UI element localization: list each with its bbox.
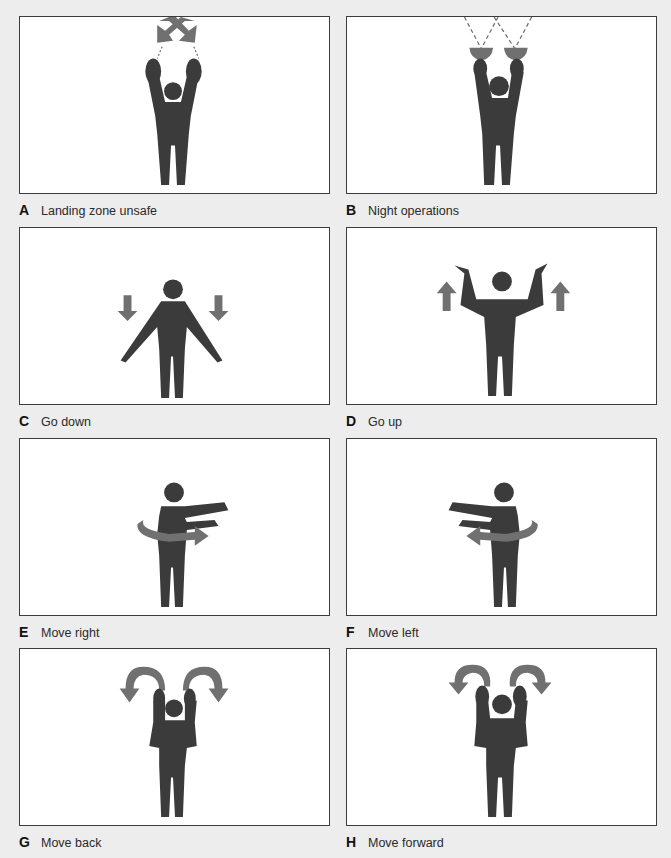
caption-g: GMove back xyxy=(19,834,101,850)
panel-letter: D xyxy=(346,413,368,429)
signal-figure-move-back xyxy=(20,649,329,825)
signal-figure-move-forward xyxy=(347,649,656,825)
curved-outward-arrows-icon xyxy=(120,667,229,703)
panel-move-back xyxy=(19,648,330,826)
panel-caption: Move forward xyxy=(368,836,444,850)
caption-a: ALanding zone unsafe xyxy=(19,202,157,218)
panel-caption: Move back xyxy=(41,836,101,850)
panel-move-left xyxy=(346,438,657,616)
panel-letter: A xyxy=(19,202,41,218)
flashlights-overhead-icon xyxy=(464,17,531,61)
panel-caption: Go down xyxy=(41,415,91,429)
caption-f: FMove left xyxy=(346,624,419,640)
panel-letter: C xyxy=(19,413,41,429)
panel-letter: F xyxy=(346,624,368,640)
person-silhouette-icon xyxy=(449,483,520,608)
signal-figure-go-down xyxy=(20,228,329,404)
panel-landing-zone-unsafe xyxy=(19,16,330,194)
person-silhouette-icon xyxy=(474,686,527,818)
caption-e: EMove right xyxy=(19,624,99,640)
panel-caption: Move right xyxy=(41,626,99,640)
caption-c: CGo down xyxy=(19,413,91,429)
panel-letter: E xyxy=(19,624,41,640)
panel-go-down xyxy=(19,227,330,405)
caption-b: BNight operations xyxy=(346,202,459,218)
panel-letter: B xyxy=(346,202,368,218)
caption-d: DGo up xyxy=(346,413,402,429)
panel-letter: G xyxy=(19,834,41,850)
panel-move-forward xyxy=(346,648,657,826)
panel-letter: H xyxy=(346,834,368,850)
person-silhouette-icon xyxy=(157,483,228,608)
panel-go-up xyxy=(346,227,657,405)
signal-figure-move-left xyxy=(347,439,656,615)
panel-move-right xyxy=(19,438,330,616)
person-silhouette-icon xyxy=(149,689,196,818)
signal-figure-landing-zone-unsafe xyxy=(20,17,329,193)
panel-caption: Move left xyxy=(368,626,419,640)
panel-caption: Night operations xyxy=(368,204,459,218)
signal-figure-move-right xyxy=(20,439,329,615)
panel-caption: Landing zone unsafe xyxy=(41,204,157,218)
person-silhouette-icon xyxy=(121,279,223,398)
person-silhouette-icon xyxy=(145,59,201,186)
panel-caption: Go up xyxy=(368,415,402,429)
caption-h: HMove forward xyxy=(346,834,444,850)
signal-figure-night-operations xyxy=(347,17,656,193)
curved-inward-arrows-icon xyxy=(449,665,552,695)
person-silhouette-icon xyxy=(455,264,548,396)
signal-figure-go-up xyxy=(347,228,656,404)
person-silhouette-icon xyxy=(473,59,523,186)
crossed-arrows-overhead-icon xyxy=(157,17,197,43)
panel-night-operations xyxy=(346,16,657,194)
